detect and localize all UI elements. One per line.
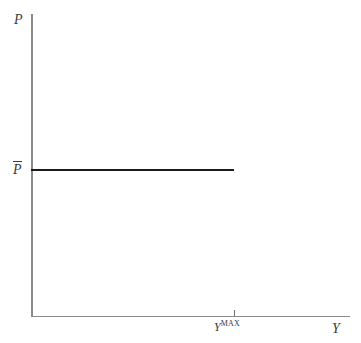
price-level-label-text: P: [13, 161, 22, 177]
price-level-label: P: [13, 161, 22, 177]
aggregate-supply-chart: P Y P YMAX: [0, 0, 361, 343]
x-axis-tick-ymax: [234, 310, 235, 316]
output-max-base: Y: [214, 320, 221, 334]
output-max-superscript: MAX: [221, 319, 240, 328]
aggregate-supply-line: [31, 169, 234, 171]
x-axis-title: Y: [332, 322, 340, 336]
x-axis-line: [31, 316, 350, 318]
y-axis-title: P: [14, 13, 23, 27]
y-axis-line: [31, 14, 33, 317]
output-max-label: YMAX: [214, 320, 240, 333]
